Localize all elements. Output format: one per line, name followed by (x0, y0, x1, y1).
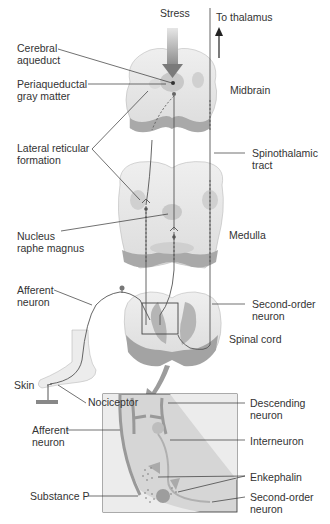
to-thalamus-label: To thalamus (216, 11, 273, 23)
stress-label: Stress (160, 7, 190, 19)
spinal-cord-section (124, 292, 221, 366)
label-substance-p: Substance P (30, 490, 90, 502)
label-nucleus-raphe: Nucleus raphe magnus (17, 230, 84, 254)
inset-synapse (103, 394, 237, 512)
label-periaqueductal-gray: Periaqueductal gray matter (17, 78, 87, 102)
medulla-section (118, 162, 223, 268)
label-spinothalamic-tract: Spinothalamic tract (252, 147, 318, 171)
label-descending-neuron: Descending neuron (250, 397, 305, 421)
label-cerebral-aqueduct: Cerebral aqueduct (17, 42, 60, 66)
label-interneuron: Interneuron (250, 435, 304, 447)
label-spinal-cord: Spinal cord (229, 333, 282, 345)
label-lateral-reticular: Lateral reticular formation (17, 142, 89, 166)
label-medulla: Medulla (229, 229, 266, 241)
label-skin: Skin (14, 379, 34, 391)
label-second-order-neuron-top: Second-order neuron (252, 298, 316, 322)
foot-illustration (36, 330, 96, 404)
label-afferent-neuron-inset: Afferent neuron (32, 424, 69, 448)
label-second-order-neuron-inset: Second-order neuron (250, 491, 314, 515)
label-enkephalin: Enkephalin (250, 471, 302, 483)
label-nociceptor: Nociceptor (88, 396, 138, 408)
to-thalamus-arrow (215, 27, 223, 58)
label-afferent-neuron-top: Afferent neuron (17, 284, 54, 308)
label-midbrain: Midbrain (230, 84, 270, 96)
